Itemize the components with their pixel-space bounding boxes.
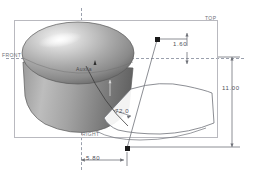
angle-arc [86, 66, 128, 126]
arrow-160-down [185, 61, 188, 64]
dimension-value-offset-top[interactable]: 1.60 [173, 41, 187, 47]
arrow-1100-down [230, 143, 233, 147]
datum-label-front[interactable]: FRONT [2, 52, 21, 58]
driving-dimension-line [127, 40, 157, 148]
arrow-160-up [185, 33, 188, 36]
front-datum-arrow [94, 60, 97, 65]
dimension-lines-layer [0, 0, 254, 178]
arrow-580-right [120, 158, 124, 161]
dimension-value-height[interactable]: 11.00 [222, 85, 240, 91]
arrow-720 [127, 116, 131, 119]
datum-label-right[interactable]: RIGHT [82, 131, 100, 137]
arrow-580-left [81, 158, 85, 161]
inner-tick-arrow [109, 80, 112, 83]
datum-label-top[interactable]: TOP [205, 15, 216, 21]
dimension-value-angle[interactable]: 72.0 [115, 108, 129, 114]
datum-label-auxiliary[interactable]: Auxila [76, 66, 92, 72]
arrow-1100-up [230, 57, 233, 61]
cad-viewport[interactable]: TOP FRONT RIGHT Auxila 1.60 11.00 5.80 7… [0, 0, 254, 178]
dimension-value-base-offset[interactable]: 5.80 [86, 155, 100, 161]
upper-drag-handle[interactable] [155, 37, 160, 42]
lower-drag-handle[interactable] [125, 146, 130, 151]
